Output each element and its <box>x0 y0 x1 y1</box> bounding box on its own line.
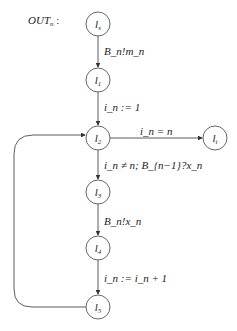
node-label-l5: l5 <box>86 295 110 319</box>
edge-label-l2-l3: i_n ≠ n; B_{n−1}?x_n <box>104 160 202 171</box>
node-label-l3: l3 <box>86 180 110 204</box>
node-label-lt: lt <box>203 126 227 150</box>
node-label-l1: l1 <box>86 68 110 92</box>
edge-l5-l2-loop <box>14 135 86 307</box>
diagram-title: OUTn : <box>28 15 59 28</box>
node-label-ls: ls <box>86 12 110 36</box>
edge-label-l4-l5: i_n := i_n + 1 <box>104 273 167 284</box>
node-label-l2: l2 <box>86 126 110 150</box>
edge-label-l1-l2: i_n := 1 <box>104 102 140 113</box>
node-label-l4: l4 <box>86 236 110 260</box>
edge-label-ls-l1: B_n!m_n <box>104 46 144 57</box>
edge-label-l3-l4: B_n!x_n <box>104 216 141 227</box>
edge-label-l2-lt: i_n = n <box>140 126 172 137</box>
